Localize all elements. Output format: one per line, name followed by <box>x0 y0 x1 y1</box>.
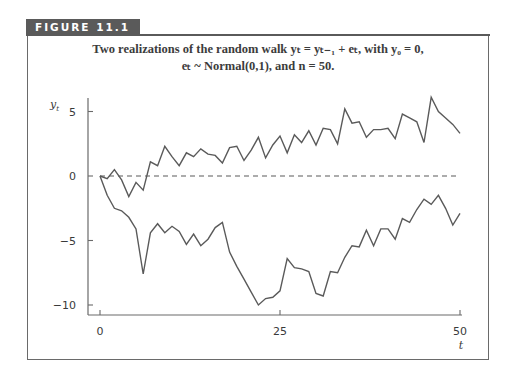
x-tick-label: 0 <box>97 325 104 338</box>
chart-series <box>100 97 460 305</box>
y-tick-label: 5 <box>69 106 76 119</box>
x-tick-label: 25 <box>273 325 287 338</box>
y-tick-label: 0 <box>69 170 76 183</box>
y-axis-label: yt <box>49 98 59 113</box>
x-axis-label: t <box>459 339 464 352</box>
series-line-1 <box>100 97 460 196</box>
y-tick-label: −5 <box>60 235 76 248</box>
x-tick-label: 50 <box>453 325 467 338</box>
y-tick-label: −10 <box>53 299 76 312</box>
series-line-2 <box>100 176 460 305</box>
chart-axes: 50−5−1002550tyt <box>49 98 467 352</box>
line-chart: 50−5−1002550tyt <box>0 0 511 378</box>
